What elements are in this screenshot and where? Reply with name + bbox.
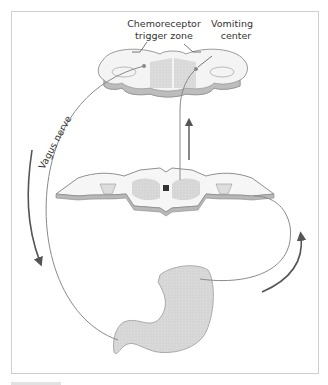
central-canal xyxy=(163,185,169,191)
label-vc-2: center xyxy=(221,30,252,41)
emesis-pathway-diagram: Chemoreceptor trigger zone Vomiting cent… xyxy=(0,0,328,385)
arrow-up-right xyxy=(262,236,301,292)
stomach xyxy=(113,266,213,354)
medulla xyxy=(98,49,247,97)
spinal-cord xyxy=(56,168,274,216)
spinal-afferent-nerve xyxy=(200,196,291,281)
label-ctz-2: trigger zone xyxy=(135,30,193,41)
label-vagus-nerve: Vagus nerve xyxy=(36,114,73,171)
label-ctz-1: Chemoreceptor xyxy=(127,18,201,29)
label-vc-1: Vomiting xyxy=(211,18,253,29)
